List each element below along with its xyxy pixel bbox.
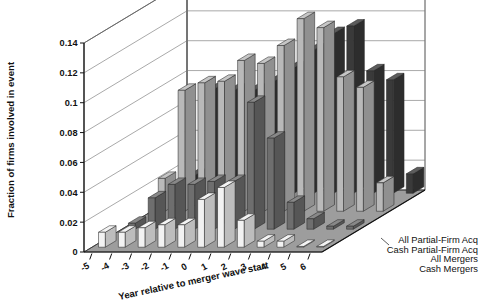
y-axis-title: Fraction of firms involved in event — [5, 61, 16, 218]
x-tick — [209, 254, 211, 260]
bar — [317, 21, 335, 211]
bar — [337, 70, 355, 211]
bar-front-face — [138, 228, 145, 247]
y-tick-label: 0 — [72, 247, 77, 257]
bar-front-face — [406, 174, 413, 193]
bar — [267, 132, 285, 230]
bar-side-face — [363, 81, 374, 211]
bar — [287, 196, 305, 229]
chart-root: 00.020.040.060.080.10.120.14-5-4-3-2-101… — [5, 0, 478, 302]
x-tick — [90, 254, 92, 260]
x-tick-label: 1 — [199, 261, 208, 272]
bar-front-face — [337, 77, 344, 211]
bar-side-face — [393, 73, 404, 193]
bar-front-face — [178, 225, 185, 247]
bar-front-face — [287, 202, 294, 229]
bar-front-face — [376, 183, 383, 211]
bar-side-face — [204, 193, 215, 247]
y-tick-label: 0.12 — [60, 68, 78, 78]
bar-front-face — [218, 187, 225, 247]
x-tick-label: -3 — [119, 261, 131, 274]
bar-front-face — [247, 102, 254, 229]
bar-front-face — [307, 219, 314, 229]
x-tick — [149, 254, 151, 260]
bar-side-face — [274, 132, 285, 230]
gridline-left — [84, 41, 187, 103]
x-tick-label: -2 — [139, 261, 151, 274]
bar — [406, 167, 424, 193]
gridline-left — [84, 0, 187, 43]
y-axis: 00.020.040.060.080.10.120.14 — [60, 38, 84, 257]
bar — [376, 176, 394, 211]
bar-front-face — [297, 246, 304, 247]
bar-front-face — [347, 226, 354, 229]
bar-side-face — [373, 64, 384, 193]
bar-front-face — [357, 87, 364, 211]
y-tick-label: 0.14 — [60, 38, 79, 48]
legend-item-4: Cash Mergers — [419, 263, 478, 274]
bar-front-face — [267, 138, 274, 229]
gridline-left — [84, 11, 187, 73]
x-tick — [248, 254, 250, 260]
y-tick-label: 0.08 — [60, 128, 78, 138]
bar — [218, 181, 236, 247]
bar-side-face — [284, 39, 295, 211]
x-axis: -5-4-3-2-10123456 — [79, 254, 310, 274]
y-tick-label: 0.04 — [60, 188, 79, 198]
x-tick — [110, 254, 112, 260]
x-tick-label: 6 — [299, 261, 308, 272]
bar-side-face — [254, 96, 265, 229]
bar-front-face — [317, 28, 324, 212]
x-tick — [229, 254, 231, 260]
bar-front-face — [237, 220, 244, 247]
bar — [357, 81, 375, 211]
chart-figure: 00.020.040.060.080.10.120.14-5-4-3-2-101… — [0, 0, 482, 303]
x-tick-label: -5 — [79, 261, 91, 274]
x-tick-label: 5 — [279, 261, 288, 272]
bar — [247, 96, 265, 229]
x-tick-label: -4 — [99, 260, 112, 273]
bar-side-face — [304, 12, 315, 211]
legend-leader — [381, 238, 389, 245]
x-tick-label: 0 — [180, 261, 189, 272]
x-tick-label: -1 — [158, 261, 170, 274]
bar — [198, 193, 216, 247]
bar-front-face — [327, 226, 334, 229]
x-tick — [288, 254, 290, 260]
y-tick-label: 0.02 — [60, 218, 78, 228]
bar — [297, 12, 315, 211]
bar-side-face — [224, 181, 235, 247]
gridline-left — [84, 100, 187, 162]
bar-front-face — [277, 241, 284, 247]
bar-chart-3d: 00.020.040.060.080.10.120.14-5-4-3-2-101… — [0, 0, 482, 303]
bar-side-face — [324, 21, 335, 211]
gridline-left — [84, 71, 187, 133]
x-tick — [189, 254, 191, 260]
bar-front-face — [118, 232, 125, 247]
x-tick — [308, 254, 310, 260]
x-tick — [129, 254, 131, 260]
bar-front-face — [297, 19, 304, 212]
bar-side-face — [344, 70, 355, 211]
legend: All Partial-Firm AcqCash Partial-Firm Ac… — [381, 234, 478, 274]
bar-front-face — [257, 241, 264, 247]
bar-front-face — [198, 199, 205, 247]
y-tick-label: 0.06 — [60, 158, 78, 168]
x-tick — [268, 254, 270, 260]
bar-front-face — [99, 232, 106, 247]
x-tick — [169, 254, 171, 260]
bar — [237, 214, 255, 247]
y-tick-label: 0.1 — [65, 98, 78, 108]
bar-front-face — [317, 246, 324, 247]
bar-front-face — [158, 225, 165, 247]
bar — [386, 73, 404, 193]
